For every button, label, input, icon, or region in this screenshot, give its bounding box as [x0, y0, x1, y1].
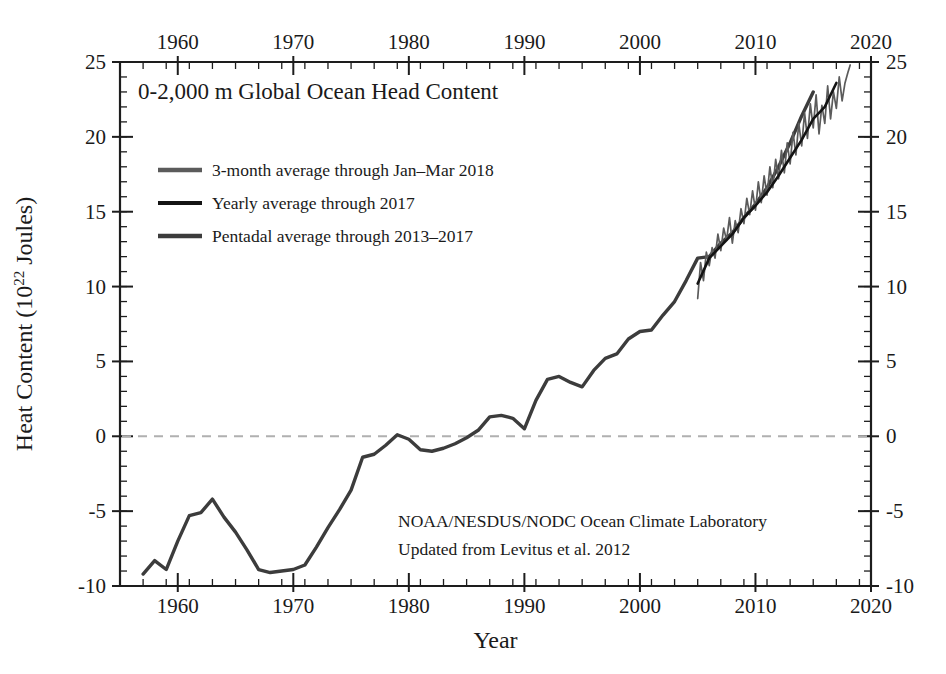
y-tick-label-left: 25	[85, 50, 106, 74]
x-axis-title: Year	[473, 627, 517, 653]
legend-label: Pentadal average through 2013–2017	[212, 226, 473, 246]
series-line	[698, 83, 837, 284]
y-tick-label-left: 5	[96, 349, 107, 373]
y-tick-label-right: 5	[886, 349, 897, 373]
y-axis-title: Heat Content (1022 Joules)	[11, 197, 37, 451]
legend-item: 3-month average through Jan–Mar 2018	[158, 160, 494, 180]
legend: 3-month average through Jan–Mar 2018Year…	[158, 160, 494, 246]
y-axis-ticks	[112, 62, 879, 586]
credit-annotation: NOAA/NESDUS/NODC Ocean Climate Laborator…	[398, 511, 767, 559]
y-tick-label-right: -10	[886, 574, 914, 598]
ocean-heat-content-figure: 1960196019701970198019801990199020002000…	[0, 0, 946, 674]
x-tick-label-bottom: 1980	[388, 594, 430, 618]
x-tick-label-bottom: 1960	[157, 594, 199, 618]
plot-frame	[120, 62, 871, 586]
x-tick-label-top: 2010	[734, 30, 776, 54]
credit-line: NOAA/NESDUS/NODC Ocean Climate Laborator…	[398, 511, 767, 531]
y-tick-label-left: -10	[78, 574, 106, 598]
x-tick-label-top: 1970	[272, 30, 314, 54]
y-tick-label-left: 10	[85, 275, 106, 299]
y-tick-label-right: 15	[886, 200, 907, 224]
y-tick-label-left: 15	[85, 200, 106, 224]
x-tick-label-top: 1960	[157, 30, 199, 54]
x-tick-label-top: 1990	[503, 30, 545, 54]
y-tick-label-right: 0	[886, 424, 897, 448]
legend-item: Pentadal average through 2013–2017	[158, 226, 473, 246]
x-tick-label-bottom: 2000	[619, 594, 661, 618]
y-tick-label-right: -5	[886, 499, 904, 523]
data-series-group	[143, 65, 850, 574]
legend-label: 3-month average through Jan–Mar 2018	[212, 160, 494, 180]
y-tick-label-right: 20	[886, 125, 907, 149]
chart-canvas: 1960196019701970198019801990199020002000…	[0, 0, 946, 674]
y-tick-label-right: 10	[886, 275, 907, 299]
x-tick-label-bottom: 2010	[734, 594, 776, 618]
credit-line: Updated from Levitus et al. 2012	[398, 539, 630, 559]
chart-title: 0-2,000 m Global Ocean Head Content	[138, 79, 499, 104]
legend-item: Yearly average through 2017	[158, 193, 415, 213]
y-tick-label-right: 25	[886, 50, 907, 74]
y-tick-label-left: 20	[85, 125, 106, 149]
x-tick-label-top: 2000	[619, 30, 661, 54]
y-tick-label-left: -5	[89, 499, 107, 523]
x-tick-label-bottom: 1970	[272, 594, 314, 618]
x-tick-label-top: 1980	[388, 30, 430, 54]
x-tick-label-bottom: 1990	[503, 594, 545, 618]
y-tick-label-left: 0	[96, 424, 107, 448]
legend-label: Yearly average through 2017	[212, 193, 415, 213]
